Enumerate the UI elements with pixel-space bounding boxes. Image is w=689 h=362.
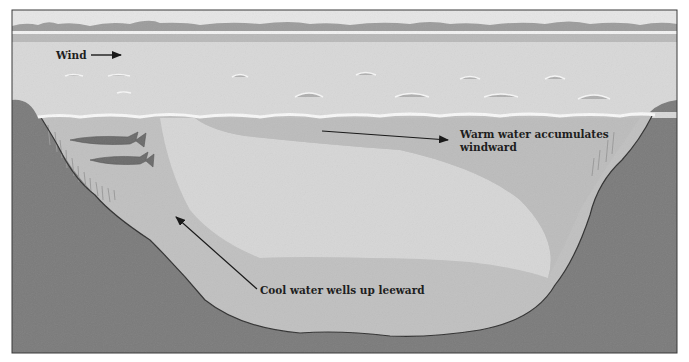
wind-label: Wind xyxy=(56,49,87,62)
diagram-illustration xyxy=(0,0,689,362)
warm-water-label-line1: Warm water accumulates xyxy=(460,128,609,141)
warm-water-label-line2: windward xyxy=(460,141,517,154)
lake-circulation-diagram: Wind Warm water accumulates windward Coo… xyxy=(0,0,689,362)
cool-water-label: Cool water wells up leeward xyxy=(260,284,425,297)
